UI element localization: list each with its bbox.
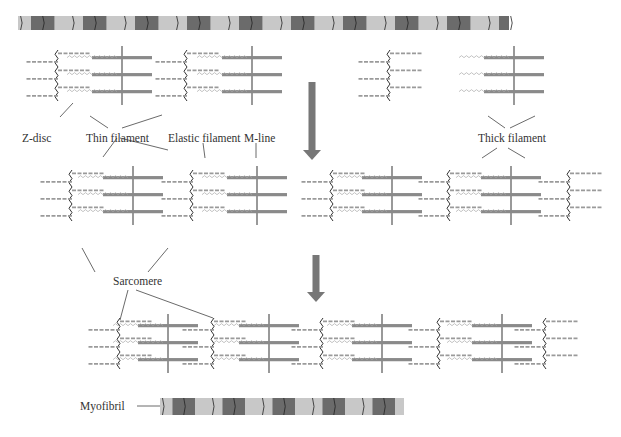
a-band	[173, 398, 196, 415]
z-disc	[330, 170, 333, 221]
a-band	[223, 398, 246, 415]
label-z-disc: Z-disc	[22, 132, 51, 144]
label-leader-line	[482, 148, 497, 158]
z-disc	[567, 170, 570, 221]
a-band	[499, 16, 509, 30]
label-leader-line	[82, 248, 95, 272]
label-thick-filament: Thick filament	[478, 132, 546, 144]
z-disc	[55, 50, 58, 101]
label-elastic-filament: Elastic filament	[168, 132, 241, 144]
label-leader-line	[90, 116, 108, 128]
down-arrow-icon	[307, 292, 325, 302]
z-disc	[184, 50, 187, 101]
diagram-canvas	[0, 0, 621, 437]
label-leader-line	[508, 148, 525, 158]
a-band	[395, 16, 418, 30]
a-band	[83, 16, 106, 30]
arrow-shaft	[313, 255, 320, 292]
z-disc	[69, 170, 72, 221]
z-disc	[387, 50, 390, 101]
a-band	[323, 398, 346, 415]
a-band	[447, 16, 470, 30]
a-band	[273, 398, 296, 415]
sarcomere-contraction-diagram: Z-disc Thin filament Elastic filament M-…	[0, 0, 621, 437]
label-leader-line	[488, 116, 505, 128]
a-band	[135, 16, 158, 30]
label-leader-line	[203, 143, 205, 158]
a-band	[187, 16, 210, 30]
label-leader-line	[122, 115, 162, 128]
a-band	[31, 16, 54, 30]
label-leader-line	[120, 290, 128, 320]
label-leader-line	[148, 248, 168, 272]
label-myofibril: Myofibril	[80, 400, 125, 412]
a-band	[373, 398, 396, 415]
label-leader-line	[136, 290, 213, 318]
label-leader-line	[510, 116, 535, 128]
z-disc	[543, 318, 546, 369]
z-disc	[190, 170, 193, 221]
down-arrow-icon	[303, 150, 321, 160]
a-band	[291, 16, 314, 30]
z-disc	[211, 318, 214, 369]
z-disc	[437, 318, 440, 369]
arrow-shaft	[309, 82, 316, 150]
a-band	[343, 16, 366, 30]
label-m-line: M-line	[244, 132, 275, 144]
z-disc	[320, 318, 323, 369]
m-line-mark	[511, 16, 513, 30]
label-leader-line	[60, 103, 73, 117]
a-band	[239, 16, 262, 30]
label-sarcomere: Sarcomere	[113, 275, 162, 287]
z-disc	[447, 170, 450, 221]
label-thin-filament: Thin filament	[86, 132, 149, 144]
